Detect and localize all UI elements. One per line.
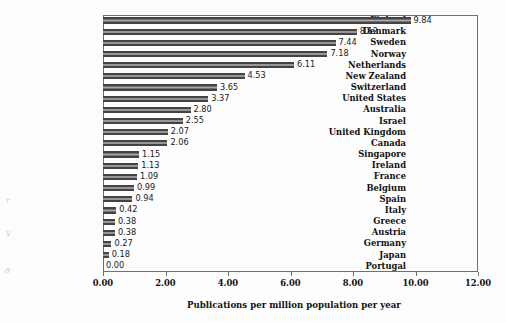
bar-value-label: 0.27 bbox=[114, 238, 132, 249]
bar-row: 4.53 bbox=[103, 71, 478, 82]
bar-chart-figure: ry8 FinlandDenmarkSwedenNorwayNetherland… bbox=[0, 0, 506, 323]
x-tick-label: 12.00 bbox=[465, 278, 491, 288]
bar-value-label: 2.80 bbox=[194, 104, 212, 115]
bar-row: 0.27 bbox=[103, 238, 478, 249]
bar-value-label: 1.13 bbox=[141, 160, 159, 171]
bar-value-label: 3.37 bbox=[211, 93, 229, 104]
bar-row: 0.99 bbox=[103, 183, 478, 194]
bar-row: 1.09 bbox=[103, 171, 478, 182]
x-tick-mark bbox=[166, 272, 167, 276]
x-tick-mark bbox=[416, 272, 417, 276]
bar-row: 2.06 bbox=[103, 138, 478, 149]
bar bbox=[103, 96, 208, 102]
scan-artifact-mark: y bbox=[6, 228, 11, 237]
x-tick-label: 4.00 bbox=[218, 278, 238, 288]
bar-row: 0.38 bbox=[103, 216, 478, 227]
bar-value-label: 0.00 bbox=[106, 260, 124, 271]
bar bbox=[103, 40, 336, 46]
bar-value-label: 0.38 bbox=[118, 216, 136, 227]
bar bbox=[103, 185, 134, 191]
bar bbox=[103, 140, 167, 146]
bar-value-label: 0.18 bbox=[112, 249, 130, 260]
bar-value-label: 8.12 bbox=[360, 26, 378, 37]
bar bbox=[103, 129, 168, 135]
scan-artifact-mark: r bbox=[6, 196, 10, 205]
bar bbox=[103, 241, 111, 247]
x-tick-label: 0.00 bbox=[93, 278, 113, 288]
bar-value-label: 0.94 bbox=[135, 193, 153, 204]
bar bbox=[103, 17, 411, 23]
bar bbox=[103, 174, 137, 180]
bar-row: 0.00 bbox=[103, 261, 478, 272]
bar bbox=[103, 151, 139, 157]
bar bbox=[103, 163, 138, 169]
bar-row: 0.94 bbox=[103, 194, 478, 205]
bar-value-label: 2.55 bbox=[186, 115, 204, 126]
bar-value-label: 7.18 bbox=[330, 48, 348, 59]
bar-row: 0.42 bbox=[103, 205, 478, 216]
bar-value-label: 0.99 bbox=[137, 182, 155, 193]
bar-value-label: 1.15 bbox=[142, 149, 160, 160]
bar-value-label: 7.44 bbox=[339, 37, 357, 48]
bar-value-label: 0.42 bbox=[119, 204, 137, 215]
bar-value-label: 6.11 bbox=[297, 59, 315, 70]
bar-value-label: 2.07 bbox=[171, 126, 189, 137]
bar-row: 0.18 bbox=[103, 250, 478, 261]
x-tick-mark bbox=[103, 272, 104, 276]
bar-row: 0.38 bbox=[103, 227, 478, 238]
bar-row: 6.11 bbox=[103, 60, 478, 71]
x-tick-label: 6.00 bbox=[280, 278, 300, 288]
x-tick-mark bbox=[478, 272, 479, 276]
bar bbox=[103, 118, 183, 124]
bar bbox=[103, 207, 116, 213]
bar bbox=[103, 219, 115, 225]
bar-row: 2.07 bbox=[103, 127, 478, 138]
bar-row: 1.13 bbox=[103, 160, 478, 171]
x-tick-mark bbox=[353, 272, 354, 276]
bar bbox=[103, 62, 294, 68]
bar-value-label: 2.06 bbox=[170, 137, 188, 148]
bar bbox=[103, 107, 191, 113]
bar-row: 1.15 bbox=[103, 149, 478, 160]
x-tick-label: 8.00 bbox=[343, 278, 363, 288]
bar bbox=[103, 73, 245, 79]
bar-value-label: 4.53 bbox=[248, 70, 266, 81]
bar-value-label: 0.38 bbox=[118, 227, 136, 238]
bar-row: 2.80 bbox=[103, 104, 478, 115]
bar bbox=[103, 51, 327, 57]
bar-row: 2.55 bbox=[103, 116, 478, 127]
scan-artifact-mark: 8 bbox=[5, 266, 10, 275]
x-tick-label: 2.00 bbox=[155, 278, 175, 288]
bar-row: 7.18 bbox=[103, 49, 478, 60]
bar-value-label: 9.84 bbox=[414, 15, 432, 26]
bars-container: 9.848.127.447.186.114.533.653.372.802.55… bbox=[103, 15, 478, 272]
bar-value-label: 1.09 bbox=[140, 171, 158, 182]
bar bbox=[103, 230, 115, 236]
bar-row: 7.44 bbox=[103, 37, 478, 48]
x-tick-mark bbox=[228, 272, 229, 276]
bar-row: 3.65 bbox=[103, 82, 478, 93]
x-axis-title: Publications per million population per … bbox=[0, 300, 506, 310]
bar bbox=[103, 196, 132, 202]
bar bbox=[103, 84, 217, 90]
bar-row: 3.37 bbox=[103, 93, 478, 104]
bar bbox=[103, 252, 109, 258]
bar-value-label: 3.65 bbox=[220, 82, 238, 93]
x-tick-mark bbox=[291, 272, 292, 276]
bar-row: 9.84 bbox=[103, 15, 478, 26]
x-tick-label: 10.00 bbox=[402, 278, 428, 288]
bar-row: 8.12 bbox=[103, 26, 478, 37]
bar bbox=[103, 29, 357, 35]
